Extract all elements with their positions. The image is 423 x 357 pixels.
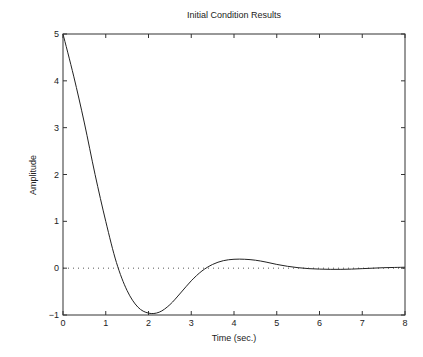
x-tick-label: 7 xyxy=(360,318,365,328)
x-tick-label: 8 xyxy=(402,318,407,328)
response-curve xyxy=(63,34,405,314)
y-axis-label: Amplitude xyxy=(28,155,38,195)
x-tick-label: 5 xyxy=(274,318,279,328)
y-tick-label: 2 xyxy=(54,170,59,180)
x-axis-ticks: 012345678 xyxy=(60,34,407,328)
chart-title: Initial Condition Results xyxy=(187,10,282,20)
y-tick-label: 1 xyxy=(54,216,59,226)
y-tick-label: 0 xyxy=(54,263,59,273)
y-tick-label: −1 xyxy=(49,310,59,320)
y-tick-label: 4 xyxy=(54,76,59,86)
x-axis-label: Time (sec.) xyxy=(212,333,257,343)
response-line xyxy=(63,34,405,314)
x-tick-label: 3 xyxy=(189,318,194,328)
x-tick-label: 1 xyxy=(103,318,108,328)
x-tick-label: 6 xyxy=(317,318,322,328)
x-tick-label: 2 xyxy=(146,318,151,328)
y-axis-ticks: −1012345 xyxy=(49,29,405,320)
y-tick-label: 5 xyxy=(54,29,59,39)
y-tick-label: 3 xyxy=(54,123,59,133)
x-tick-label: 4 xyxy=(231,318,236,328)
plot-frame xyxy=(63,34,405,315)
initial-condition-chart: Initial Condition Results Amplitude Time… xyxy=(0,0,423,357)
x-tick-label: 0 xyxy=(60,318,65,328)
